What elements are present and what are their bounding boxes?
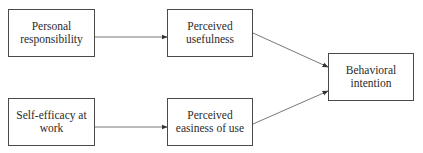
node-label-line: usefulness xyxy=(186,33,234,45)
node-label-line: work xyxy=(40,122,64,134)
node-label-line: Perceived xyxy=(187,109,232,121)
node-label-line: Personal xyxy=(32,20,72,32)
node-label-line: intention xyxy=(351,77,392,89)
node-personal-responsibility: Personalresponsibility xyxy=(8,9,95,57)
edge-perceived-usefulness-to-behavioral-intention xyxy=(253,33,328,67)
node-behavioral-intention: Behavioralintention xyxy=(328,53,414,101)
edge-perceived-easiness-to-behavioral-intention xyxy=(253,91,328,124)
node-self-efficacy: Self-efficacy atwork xyxy=(8,98,95,146)
node-perceived-easiness: Perceivedeasiness of use xyxy=(167,98,253,146)
node-label-line: Behavioral xyxy=(346,64,396,76)
node-perceived-usefulness: Perceivedusefulness xyxy=(167,9,253,57)
node-label-line: easiness of use xyxy=(176,122,244,134)
node-label-line: Self-efficacy at xyxy=(16,109,86,121)
node-label-line: Perceived xyxy=(187,20,232,32)
node-label-line: responsibility xyxy=(20,33,83,45)
